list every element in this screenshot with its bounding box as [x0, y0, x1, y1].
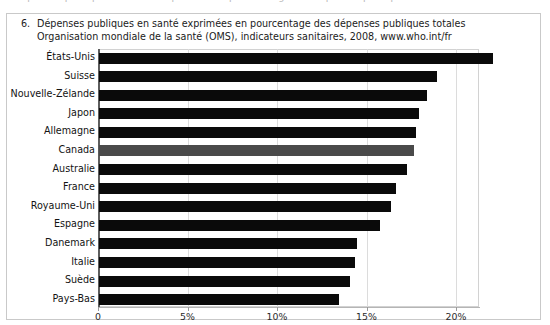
bar-row: Pays-Bas	[7, 291, 542, 310]
category-label: Canada	[58, 144, 95, 155]
category-label: Suisse	[64, 70, 95, 81]
bar	[99, 238, 357, 249]
bar	[99, 145, 414, 156]
bar-rows: États-UnisSuisseNouvelle-ZélandeJaponAll…	[7, 49, 542, 309]
x-axis-tick-label: 0	[95, 311, 101, 322]
category-label: Japon	[68, 107, 95, 118]
category-label: Nouvelle-Zélande	[11, 88, 96, 99]
bar-row: Allemagne	[7, 123, 542, 142]
bar-row: Japon	[7, 105, 542, 124]
bar-row: États-Unis	[7, 49, 542, 68]
bar	[99, 164, 407, 175]
bar-row: Suisse	[7, 68, 542, 87]
bar-row: France	[7, 179, 542, 198]
category-label: France	[63, 181, 95, 192]
bar	[99, 276, 350, 287]
bar-row: Espagne	[7, 216, 542, 235]
category-label: Pays-Bas	[53, 293, 96, 304]
x-axis-tick-label: 20%	[446, 311, 467, 322]
bar-row: Italie	[7, 254, 542, 273]
bar	[99, 201, 391, 212]
bar-row: Australie	[7, 161, 542, 180]
bar-chart: 05%10%15%20% États-UnisSuisseNouvelle-Zé…	[7, 14, 542, 321]
bar	[99, 53, 493, 64]
bar	[99, 183, 396, 194]
bar-row: Royaume-Uni	[7, 198, 542, 217]
bar	[99, 220, 380, 231]
bar	[99, 127, 416, 138]
bar-row: Danemark	[7, 235, 542, 254]
bar	[99, 71, 437, 82]
page-bleed-label: Dépenses publiques en santé exprimées en…	[14, 0, 447, 2]
bar-row: Canada	[7, 142, 542, 161]
bar	[99, 257, 355, 268]
bar-row: Nouvelle-Zélande	[7, 86, 542, 105]
figure-container: 6. Dépenses publiques en santé exprimées…	[6, 13, 541, 320]
category-label: Danemark	[45, 237, 95, 248]
x-axis-tick-label: 15%	[356, 311, 377, 322]
category-label: Espagne	[54, 218, 95, 229]
category-label: Allemagne	[44, 125, 95, 136]
category-label: Suède	[65, 274, 95, 285]
category-label: Italie	[71, 256, 95, 267]
x-axis-tick-label: 10%	[267, 311, 288, 322]
bar	[99, 294, 339, 305]
category-label: États-Unis	[46, 51, 95, 62]
page-bleed-text: Dépenses publiques en santé exprimées en…	[0, 0, 550, 9]
category-label: Royaume-Uni	[31, 200, 95, 211]
bar	[99, 90, 427, 101]
x-axis-tick-label: 5%	[180, 311, 195, 322]
bar	[99, 108, 419, 119]
bar-row: Suède	[7, 272, 542, 291]
category-label: Australie	[53, 163, 95, 174]
